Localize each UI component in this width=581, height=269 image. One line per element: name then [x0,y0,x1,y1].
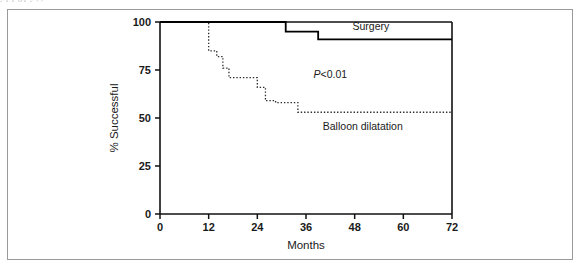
y-tick-label: 25 [139,160,151,172]
y-tick-label: 100 [133,16,151,28]
x-tick-label: 60 [397,221,409,233]
y-tick-label: 0 [145,208,151,220]
x-tick-label: 24 [251,221,264,233]
x-tick-label: 12 [203,221,215,233]
y-axis-title: % Successful [108,83,120,152]
y-tick-label: 50 [139,112,151,124]
p-value-annotation: P<0.01 [314,68,348,80]
axes [160,22,452,214]
y-tick-label: 75 [139,64,151,76]
p-value-symbol: P [314,68,321,80]
p-value-threshold: <0.01 [321,68,348,80]
survival-chart: 0122436486072 0255075100 Months % Succes… [0,0,581,269]
series-line-balloon-dilatation [160,22,452,112]
series-label-surgery: Surgery [353,20,391,32]
series-label-balloon-dilatation: Balloon dilatation [323,120,403,132]
y-axis-tick-labels: 0255075100 [133,16,151,220]
x-tick-label: 0 [157,221,163,233]
plot-frame [160,22,452,214]
series-line-surgery [160,22,452,39]
x-axis-tick-labels: 0122436486072 [157,221,458,233]
x-tick-label: 48 [349,221,361,233]
x-tick-label: 72 [446,221,458,233]
x-axis-title: Months [287,239,325,251]
plot-area: 0122436486072 0255075100 Months % Succes… [0,0,581,269]
x-tick-label: 36 [300,221,312,233]
series-group [160,22,452,112]
figure-page: y p p g p y ( ) 01224 [0,0,581,269]
